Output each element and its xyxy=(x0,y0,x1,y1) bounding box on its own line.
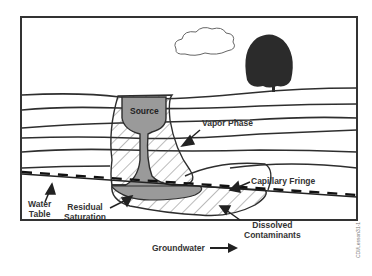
label-water-table: Water Table xyxy=(28,200,51,219)
label-groundwater: Groundwater xyxy=(152,244,205,254)
label-residual-line2: Saturation xyxy=(64,213,106,223)
label-dissolved-line2: Contaminants xyxy=(244,231,301,241)
label-vapor-phase: Vapor Phase xyxy=(202,119,253,129)
label-residual-saturation: Residual Saturation xyxy=(64,203,106,222)
credit-text: CDI/Lesson31-1 xyxy=(355,222,361,258)
groundwater-flow-arrow xyxy=(210,243,238,253)
label-source: Source xyxy=(130,107,159,117)
diagram-canvas xyxy=(0,0,372,276)
label-water-table-line2: Table xyxy=(28,210,51,220)
tree-icon xyxy=(245,34,292,92)
label-dissolved-contaminants: Dissolved Contaminants xyxy=(244,221,301,240)
label-capillary-fringe: Capillary Fringe xyxy=(251,177,315,187)
